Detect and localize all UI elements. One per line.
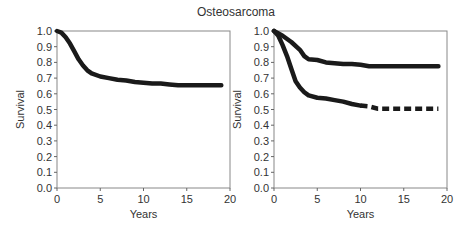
y-tick-label: 0.6: [37, 88, 52, 100]
survival-curve-dashed: [361, 106, 439, 109]
y-tick-label: 0.3: [254, 135, 269, 147]
x-tick-label: 5: [314, 193, 320, 205]
x-tick-label: 20: [441, 193, 453, 205]
x-axis-label: Years: [347, 208, 375, 220]
plot-frame: [57, 31, 230, 188]
x-tick-label: 10: [137, 193, 149, 205]
y-axis-label: Survival: [231, 90, 243, 129]
y-tick-label: 0.5: [254, 104, 269, 116]
left-survival-chart: 0.00.10.20.30.40.50.60.70.80.91.00510152…: [14, 25, 236, 220]
y-tick-label: 0.6: [254, 88, 269, 100]
right-survival-chart: 0.00.10.20.30.40.50.60.70.80.91.00510152…: [231, 25, 453, 220]
y-tick-label: 0.8: [254, 56, 269, 68]
y-tick-label: 0.1: [37, 166, 52, 178]
y-tick-label: 0.5: [37, 104, 52, 116]
y-tick-label: 0.8: [37, 56, 52, 68]
figure: Osteosarcoma 0.00.10.20.30.40.50.60.70.8…: [0, 0, 473, 233]
x-tick-label: 20: [224, 193, 236, 205]
y-axis-label: Survival: [14, 90, 26, 129]
x-tick-label: 5: [97, 193, 103, 205]
x-tick-label: 15: [398, 193, 410, 205]
survival-curve: [274, 31, 361, 106]
x-axis-label: Years: [130, 208, 158, 220]
y-tick-label: 0.3: [37, 135, 52, 147]
y-tick-label: 0.7: [254, 72, 269, 84]
y-tick-label: 0.2: [254, 151, 269, 163]
y-tick-label: 0.0: [254, 182, 269, 194]
y-tick-label: 0.7: [37, 72, 52, 84]
x-tick-label: 10: [354, 193, 366, 205]
y-tick-label: 1.0: [254, 25, 269, 37]
y-tick-label: 0.9: [254, 41, 269, 53]
figure-title: Osteosarcoma: [197, 5, 275, 19]
x-tick-label: 0: [54, 193, 60, 205]
y-tick-label: 0.2: [37, 151, 52, 163]
y-tick-label: 0.1: [254, 166, 269, 178]
x-tick-label: 0: [271, 193, 277, 205]
y-tick-label: 0.4: [254, 119, 269, 131]
y-tick-label: 0.4: [37, 119, 52, 131]
y-tick-label: 0.9: [37, 41, 52, 53]
survival-curve: [274, 31, 438, 66]
y-tick-label: 0.0: [37, 182, 52, 194]
survival-curve: [57, 31, 221, 85]
x-tick-label: 15: [181, 193, 193, 205]
y-tick-label: 1.0: [37, 25, 52, 37]
